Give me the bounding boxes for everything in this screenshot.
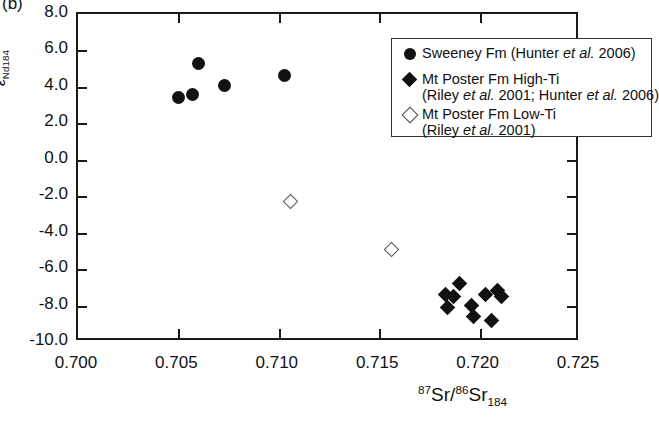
data-point-filled-diamond: [438, 287, 454, 303]
data-point-filled-diamond: [464, 298, 480, 314]
y-tick: [78, 123, 87, 125]
data-point-filled-diamond: [494, 289, 510, 305]
legend-label: Sweeney Fm (Hunter et al. 2006): [422, 45, 636, 61]
open-diamond-icon: [402, 107, 419, 124]
x-tick: [279, 329, 281, 338]
y-tick-label: -2.0: [2, 185, 68, 202]
x-tick-top: [279, 14, 281, 23]
y-tick-right: [567, 196, 576, 198]
y-tick-label: -4.0: [2, 222, 68, 239]
x-tick: [480, 329, 482, 338]
y-tick-label: 6.0: [2, 39, 68, 56]
plot-frame: Sweeney Fm (Hunter et al. 2006)Mt Poster…: [76, 12, 578, 340]
data-point-filled-circle: [218, 79, 231, 92]
x-tick: [178, 329, 180, 338]
y-tick-label: 2.0: [2, 112, 68, 129]
legend-entry: Mt Poster Fm High-Ti(Riley et al. 2001; …: [400, 71, 659, 103]
filled-circle-icon: [404, 48, 416, 60]
y-tick-label: 4.0: [2, 76, 68, 93]
legend-label: Mt Poster Fm High-Ti(Riley et al. 2001; …: [422, 71, 659, 103]
y-tick: [78, 233, 87, 235]
x-axis-title: 87Sr/86Sr184: [418, 383, 507, 408]
x-tick-label: 0.725: [533, 354, 623, 371]
x-axis-title-sr2: Sr: [468, 384, 487, 405]
filled-diamond-icon: [402, 72, 418, 88]
y-tick: [78, 306, 87, 308]
legend-label-line: Mt Poster Fm Low-Ti: [422, 106, 556, 122]
y-tick-right: [567, 306, 576, 308]
data-point-filled-circle: [278, 69, 291, 82]
data-point-filled-diamond: [490, 283, 506, 299]
data-point-filled-circle: [192, 57, 205, 70]
x-tick-label: 0.720: [433, 354, 523, 371]
legend-symbol: [400, 106, 422, 122]
y-tick-label: -6.0: [2, 258, 68, 275]
x-tick-top: [379, 14, 381, 23]
data-point-filled-diamond: [452, 276, 468, 292]
legend-label-line: Sweeney Fm (Hunter et al. 2006): [422, 45, 636, 61]
x-tick: [379, 329, 381, 338]
data-point-filled-diamond: [446, 289, 462, 305]
legend-label-line: (Riley et al. 2001; Hunter et al. 2006): [422, 87, 659, 103]
data-point-filled-circle: [172, 91, 185, 104]
data-point-open-diamond: [283, 194, 299, 210]
legend-symbol: [400, 71, 422, 87]
y-tick-right: [567, 160, 576, 162]
x-tick-label: 0.715: [332, 354, 422, 371]
y-tick-right: [567, 269, 576, 271]
x-axis-title-sup-86: 86: [455, 383, 468, 396]
data-point-filled-diamond: [440, 300, 456, 316]
y-tick: [78, 160, 87, 162]
x-axis-title-sup-87: 87: [418, 383, 431, 396]
data-point-filled-diamond: [484, 312, 500, 328]
legend: Sweeney Fm (Hunter et al. 2006)Mt Poster…: [391, 38, 652, 137]
y-tick-label: -10.0: [2, 331, 68, 348]
x-tick-label: 0.710: [232, 354, 322, 371]
data-point-filled-diamond: [466, 309, 482, 325]
data-point-open-diamond: [383, 241, 399, 257]
x-axis-title-sr1: Sr/: [431, 384, 455, 405]
legend-entry: Sweeney Fm (Hunter et al. 2006): [400, 45, 636, 61]
y-tick: [78, 50, 87, 52]
legend-entry: Mt Poster Fm Low-Ti(Riley et al. 2001): [400, 106, 556, 138]
legend-label: Mt Poster Fm Low-Ti(Riley et al. 2001): [422, 106, 556, 138]
y-tick-label: 0.0: [2, 149, 68, 166]
data-point-filled-circle: [186, 88, 199, 101]
x-axis-title-sub-184: 184: [487, 395, 507, 408]
x-tick-top: [480, 14, 482, 23]
y-tick-right: [567, 233, 576, 235]
data-point-filled-diamond: [478, 287, 494, 303]
y-tick: [78, 196, 87, 198]
y-tick-label: -8.0: [2, 295, 68, 312]
legend-symbol: [400, 45, 422, 61]
x-tick-label: 0.705: [131, 354, 221, 371]
x-tick-top: [178, 14, 180, 23]
legend-label-line: Mt Poster Fm High-Ti: [422, 71, 659, 87]
y-tick: [78, 87, 87, 89]
y-tick-label: 8.0: [2, 3, 68, 20]
y-tick: [78, 269, 87, 271]
legend-label-line: (Riley et al. 2001): [422, 122, 556, 138]
x-tick-label: 0.700: [31, 354, 121, 371]
